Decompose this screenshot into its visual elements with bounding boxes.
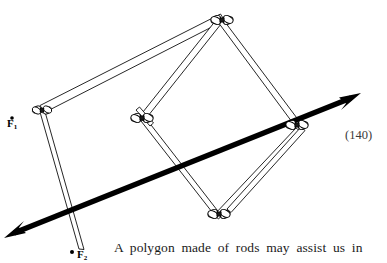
force-label-f2: F2 (77, 249, 87, 260)
force-point-f2 (70, 250, 74, 254)
force-label-f2-base: F (77, 248, 84, 260)
rod-left-to-lower-free-end (40, 112, 84, 250)
force-arrow-shaft (14, 98, 351, 233)
rod-top-to-right (218, 18, 300, 126)
rod-right-to-bottom-outer (227, 127, 305, 213)
book-page: F1 F2 (140) A polygon made of rods may a… (0, 0, 387, 263)
body-text-line: A polygon made of rods may assist us in (114, 240, 380, 256)
force-label-f2-subscript: 2 (84, 254, 88, 262)
rod-polygon-figure (0, 0, 387, 263)
rod-midleft-to-top (139, 17, 223, 121)
force-label-f1-base: F (7, 117, 14, 129)
force-label-f1: F1 (7, 118, 17, 129)
page-number: (140) (345, 128, 372, 143)
rod-left-to-top (40, 14, 225, 113)
force-label-f1-subscript: 1 (14, 123, 18, 131)
